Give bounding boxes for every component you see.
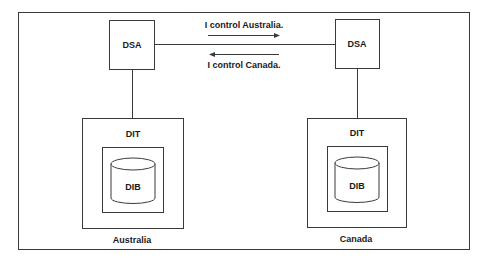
dsa-diagram: DSA DSA I control Australia. I control C… — [0, 0, 486, 260]
left-dsa-label: DSA — [122, 40, 142, 50]
region-label-australia: Australia — [113, 235, 153, 245]
message-i-control-australia: I control Australia. — [205, 20, 284, 30]
right-dit-label: DIT — [350, 128, 365, 138]
left-dit-box: DIT DIB — [83, 119, 184, 229]
message-i-control-canada: I control Canada. — [207, 60, 280, 70]
left-dib-label: DIB — [125, 182, 141, 192]
right-dib-label: DIB — [349, 181, 365, 191]
region-label-canada: Canada — [340, 234, 374, 244]
right-dit-box: DIT DIB — [308, 119, 407, 228]
right-database-icon — [335, 157, 379, 203]
outer-frame — [19, 13, 470, 250]
right-dsa-node: DSA — [336, 20, 380, 69]
left-database-icon — [111, 158, 155, 204]
left-dsa-node: DSA — [110, 21, 155, 70]
right-dsa-label: DSA — [347, 39, 367, 49]
left-dit-label: DIT — [126, 129, 141, 139]
